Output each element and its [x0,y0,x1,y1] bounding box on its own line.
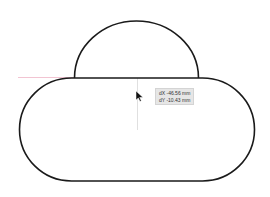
arrow-cursor-icon [136,91,144,102]
drawing-canvas[interactable] [0,0,270,197]
dome-shape[interactable] [75,21,199,78]
delta-y-label: dY -10.43 mm [159,97,190,104]
delta-x-label: dX -46.56 mm [159,90,190,97]
measure-tooltip: dX -46.56 mm dY -10.43 mm [155,88,194,105]
